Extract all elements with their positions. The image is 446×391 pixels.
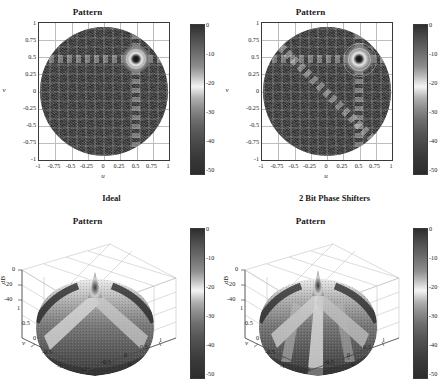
colorbar-tick: -30 xyxy=(206,108,214,115)
xtick: 1 xyxy=(159,336,162,343)
ytick: -0.75 xyxy=(12,138,36,145)
visible-region-disc xyxy=(40,27,168,156)
colorbar-tick: -20 xyxy=(206,283,214,290)
axes-ideal-3d: 0 -20 -40 dB 1 0.5 0 -0.5 -1 v -1 -0.5 0… xyxy=(0,210,190,391)
main-beam-contour-outer xyxy=(343,43,377,77)
colorbar xyxy=(413,24,428,175)
colorbar-tick: 0 xyxy=(206,225,209,232)
ytick: -0.25 xyxy=(235,104,259,111)
ytick: 0.75 xyxy=(235,36,259,43)
colorbar-tick: -20 xyxy=(429,283,437,290)
ytick: -1 xyxy=(12,155,36,162)
ytick: 0 xyxy=(12,87,36,94)
axes-ideal-2d xyxy=(38,22,170,161)
ytick: 0 xyxy=(235,87,259,94)
ytick: -1 xyxy=(57,362,62,369)
colorbar-tick: -50 xyxy=(429,166,437,173)
panel-title: Pattern xyxy=(199,7,422,17)
ytick: 0.5 xyxy=(22,319,30,326)
xtick: 0.5 xyxy=(140,343,148,350)
xtick: -0.5 xyxy=(101,358,111,365)
caption-ideal: Ideal xyxy=(0,193,223,203)
xtick: 1 xyxy=(382,336,385,343)
colorbar-tick: -10 xyxy=(206,50,214,57)
ytick: 0.75 xyxy=(12,36,36,43)
colorbar-tick: -50 xyxy=(206,166,214,173)
panel-ideal-2d: Pattern -1 -0.75 xyxy=(0,0,223,190)
ytick: 0 xyxy=(256,334,259,341)
ytick: 0.5 xyxy=(235,53,259,60)
colorbar-tick: -40 xyxy=(206,341,214,348)
axes-twobit-2d xyxy=(261,22,393,161)
ytick: -0.5 xyxy=(12,121,36,128)
panel-ideal-3d: Pattern xyxy=(0,210,223,391)
ytick: -0.5 xyxy=(42,348,52,355)
panel-title: Pattern xyxy=(0,7,199,17)
ytick: 0.25 xyxy=(235,70,259,77)
ytick: 0.25 xyxy=(12,70,36,77)
surface-plot-twobit xyxy=(223,210,413,391)
ytick: -0.5 xyxy=(265,348,275,355)
figure-canvas: Pattern -1 -0.75 xyxy=(0,0,446,391)
u-axis-label: u xyxy=(351,360,355,368)
colorbar-tick: 0 xyxy=(429,21,432,28)
x-axis-label: u xyxy=(316,172,336,180)
ytick: -0.75 xyxy=(235,138,259,145)
ztick: 0 xyxy=(235,265,238,272)
panel-twobit-2d: Pattern -1 xyxy=(223,0,446,190)
colorbar-tick: -50 xyxy=(206,370,214,377)
colorbar-tick: -40 xyxy=(429,341,437,348)
colorbar-tick: -20 xyxy=(206,79,214,86)
ytick: -1 xyxy=(280,362,285,369)
surface-plot-ideal xyxy=(0,210,190,391)
colorbar-tick: -50 xyxy=(429,370,437,377)
z-axis-label: dB xyxy=(0,271,7,289)
colorbar-tick: 0 xyxy=(429,225,432,232)
ztick: -40 xyxy=(227,295,235,302)
ytick: 0.5 xyxy=(245,319,253,326)
main-beam-contour xyxy=(126,49,146,69)
colorbar xyxy=(190,228,205,379)
u-axis-label: u xyxy=(128,360,132,368)
xtick: 1 xyxy=(381,162,401,169)
colorbar-tick: -10 xyxy=(429,50,437,57)
colorbar xyxy=(190,24,205,175)
panel-twobit-3d: Pattern xyxy=(223,210,446,391)
ztick: 0 xyxy=(12,265,15,272)
caption-twobit: 2 Bit Phase Shifters xyxy=(223,193,446,203)
visible-region-disc xyxy=(263,27,391,156)
xtick: -1 xyxy=(305,365,310,372)
ytick: 1 xyxy=(240,304,243,311)
ztick: -40 xyxy=(4,295,12,302)
xtick: 0 xyxy=(124,351,127,358)
xtick: 0.5 xyxy=(363,343,371,350)
ytick: -0.5 xyxy=(235,121,259,128)
ytick: 1 xyxy=(17,304,20,311)
v-axis-label: v xyxy=(245,339,248,347)
colorbar-tick: -20 xyxy=(429,79,437,86)
colorbar xyxy=(413,228,428,379)
xtick: 1 xyxy=(158,162,178,169)
y-axis-label: v xyxy=(221,86,233,94)
colorbar-tick: -30 xyxy=(206,312,214,319)
y-axis-label: v xyxy=(0,86,10,94)
ytick: 0 xyxy=(33,334,36,341)
xtick: -1 xyxy=(82,365,87,372)
axes-twobit-3d: 0 -20 -40 dB 1 0.5 0 -0.5 -1 v -1 -0.5 0… xyxy=(223,210,413,391)
ytick: 1 xyxy=(12,19,36,26)
grating-lobe-lattice xyxy=(40,27,168,156)
xtick: 0 xyxy=(347,351,350,358)
ytick: -0.25 xyxy=(12,104,36,111)
colorbar-tick: -30 xyxy=(429,312,437,319)
ytick: 1 xyxy=(235,19,259,26)
ytick: -1 xyxy=(235,155,259,162)
z-axis-label: dB xyxy=(222,271,230,289)
ytick: 0.5 xyxy=(12,53,36,60)
xtick: -0.5 xyxy=(324,358,334,365)
colorbar-tick: -40 xyxy=(206,137,214,144)
colorbar-tick: -30 xyxy=(429,108,437,115)
colorbar-tick: -10 xyxy=(206,254,214,261)
colorbar-tick: -10 xyxy=(429,254,437,261)
colorbar-tick: -40 xyxy=(429,137,437,144)
v-axis-label: v xyxy=(22,339,25,347)
